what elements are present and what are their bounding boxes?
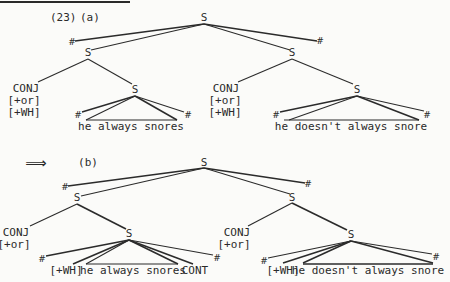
tree-a-left-s-node: S <box>85 47 92 59</box>
tree-b-left-inner-s-node: S <box>126 228 133 240</box>
boundary-marker: # <box>74 110 82 120</box>
boundary-marker: # <box>316 36 324 46</box>
tree-a-left-terminal: he always snores <box>78 121 184 133</box>
tree-b-left-feature-or: [+or] <box>0 239 31 251</box>
derivation-arrow-icon: ⟹ <box>25 154 47 172</box>
tree-b-left-cont: CONT <box>182 265 209 277</box>
tree-b-left-wh-feature: [+WH] <box>49 265 82 277</box>
boundary-marker: # <box>61 182 69 192</box>
boundary-marker: # <box>432 252 440 262</box>
tree-b-left-s-node: S <box>74 192 81 204</box>
tree-b-left-terminal: he always snores <box>80 265 186 277</box>
tree-a-label: (a) <box>80 12 100 24</box>
tree-a-left-inner-s-node: S <box>132 84 139 96</box>
tree-b-root-node: S <box>201 157 208 169</box>
tree-a-right-s-node: S <box>289 47 296 59</box>
tree-b-right-terminal: he doesn't always snore <box>292 265 444 277</box>
boundary-marker: # <box>38 254 46 264</box>
tree-a-right-feature-wh: [+WH] <box>208 107 241 119</box>
tree-a-right-terminal: he doesn't always snore <box>275 121 427 133</box>
boundary-marker: # <box>423 110 431 120</box>
tree-b-right-feature-or: [+or] <box>217 239 250 251</box>
boundary-marker: # <box>213 253 221 263</box>
boundary-marker: # <box>68 37 76 47</box>
tree-a-left-feature-wh: [+WH] <box>7 107 40 119</box>
boundary-marker: # <box>184 110 192 120</box>
tree-b-label: (b) <box>78 157 98 169</box>
tree-a-right-inner-s-node: S <box>354 84 361 96</box>
boundary-marker: # <box>304 179 312 189</box>
boundary-marker: # <box>272 110 280 120</box>
tree-a-root-node: S <box>201 12 208 24</box>
tree-b-right-inner-s-node: S <box>348 229 355 241</box>
tree-b-right-s-node: S <box>289 192 296 204</box>
example-number: (23) <box>50 12 77 24</box>
